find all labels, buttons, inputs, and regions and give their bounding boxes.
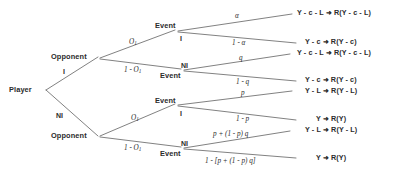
node-player: Player xyxy=(9,86,32,93)
prob-opponent-bottom-1-minus-o1: 1 - O1 xyxy=(124,145,141,152)
prob-opponent-bottom-o1: O1 xyxy=(131,115,139,122)
prob-one-minus-o-subscript-bottom: 1 xyxy=(139,146,142,152)
prob-one-minus-q: 1 - q xyxy=(236,79,249,86)
outcome-4: Y - c ➜ R(Y - c) xyxy=(305,76,357,83)
outcome-1: Y - c - L ➜ R(Y - c - L) xyxy=(297,9,371,16)
edge-opponent-top-o1 xyxy=(100,30,175,58)
node-event-1: Event xyxy=(155,22,176,29)
prob-one-minus-alpha: 1 - α xyxy=(232,40,245,47)
edge-player-not-invest xyxy=(46,90,98,136)
decision-tree-diagram: Player Opponent Opponent Event Event Eve… xyxy=(0,0,404,177)
choice-event-3-invest: I xyxy=(180,110,182,117)
prob-opponent-top-o1: O1 xyxy=(129,39,137,46)
choice-player-not-invest: NI xyxy=(56,112,63,119)
choice-player-invest: I xyxy=(63,68,65,75)
outcome-3: Y - c - L ➜ R(Y - c - L) xyxy=(297,49,371,56)
prob-alpha: α xyxy=(235,13,239,20)
edge-event2-q xyxy=(184,54,290,70)
prob-p-plus-one-minus-p-q: p + (1 - p) q xyxy=(213,131,248,138)
choice-event-2-not-invest: NI xyxy=(181,62,188,69)
node-event-3: Event xyxy=(155,97,176,104)
prob-opponent-top-1-minus-o1: 1 - O1 xyxy=(124,67,141,74)
prob-one-minus-bracket: 1 - [p + (1 - p) q] xyxy=(205,158,256,165)
choice-event-4-not-invest: NI xyxy=(181,140,188,147)
prob-o-subscript: 1 xyxy=(134,40,137,46)
edge-event3-p xyxy=(178,91,292,105)
node-event-4: Event xyxy=(160,150,181,157)
choice-event-1-invest: I xyxy=(180,35,182,42)
edge-player-invest xyxy=(46,57,98,90)
prob-p: p xyxy=(241,90,245,97)
outcome-5: Y - L ➜ R(Y - L) xyxy=(305,87,357,94)
outcome-6: Y ➜ R(Y) xyxy=(316,115,346,122)
node-event-2: Event xyxy=(160,72,181,79)
prob-one-minus-o-symbol-bottom: 1 - O xyxy=(124,144,139,152)
prob-one-minus-o-symbol: 1 - O xyxy=(124,66,139,74)
prob-q: q xyxy=(239,55,243,62)
prob-one-minus-p: 1 - p xyxy=(236,116,249,123)
outcome-2: Y - c ➜ R(Y - c) xyxy=(305,38,357,45)
node-opponent-top: Opponent xyxy=(51,53,87,60)
outcome-8: Y ➜ R(Y) xyxy=(316,154,346,161)
prob-o-subscript-bottom: 1 xyxy=(136,116,139,122)
node-opponent-bottom: Opponent xyxy=(51,132,87,139)
outcome-7: Y - L ➜ R(Y - L) xyxy=(305,126,357,133)
prob-one-minus-o-subscript: 1 xyxy=(139,68,142,74)
